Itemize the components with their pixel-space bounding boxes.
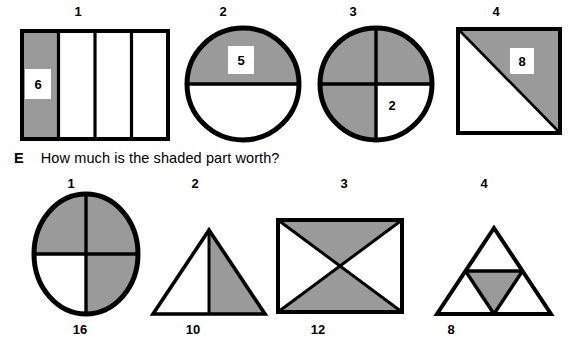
top-item-number-1: 1: [70, 5, 86, 18]
figure-top-2-circle: [183, 24, 303, 144]
top-item-number-4: 4: [488, 5, 504, 18]
value-label-top-3: 2: [385, 99, 399, 112]
circle-halves-svg: [183, 24, 303, 144]
bottom-item-number-3: 3: [336, 177, 352, 190]
figure-bottom-1-circle: [30, 190, 142, 318]
figure-bottom-3-rectangle: [275, 217, 407, 317]
rectangle-bowtie-svg: [275, 217, 407, 317]
value-label-top-1: 6: [25, 69, 51, 99]
question-tag: E: [14, 150, 24, 166]
top-item-number-2: 2: [215, 5, 231, 18]
value-label-bottom-1: 16: [69, 323, 91, 336]
value-label-bottom-3: 12: [307, 323, 329, 336]
circle-quarters-svg: [30, 190, 142, 318]
bottom-item-number-1: 1: [63, 177, 79, 190]
circle-quarters-svg: [316, 24, 436, 144]
value-label-bottom-4: 8: [443, 323, 459, 336]
square-diagonal-svg: [455, 26, 563, 136]
figure-top-4-square: [455, 26, 563, 136]
figure-top-3-circle: [316, 24, 436, 144]
bottom-item-number-4: 4: [476, 177, 492, 190]
value-label-top-4: 8: [510, 48, 534, 74]
top-item-number-3: 3: [345, 5, 361, 18]
question-text: How much is the shaded part worth?: [41, 150, 280, 166]
figure-bottom-2-triangle: [150, 226, 270, 318]
triangle-halves-svg: [150, 226, 270, 318]
worksheet-page: 1 2 3 4 6 5: [0, 0, 576, 359]
question-line: EHow much is the shaded part worth?: [14, 150, 280, 166]
bottom-item-number-2: 2: [187, 177, 203, 190]
value-label-top-2: 5: [228, 46, 254, 74]
value-label-bottom-2: 10: [182, 323, 204, 336]
figure-bottom-4-triangle: [434, 224, 556, 318]
triangle-midpoint-svg: [434, 224, 556, 318]
